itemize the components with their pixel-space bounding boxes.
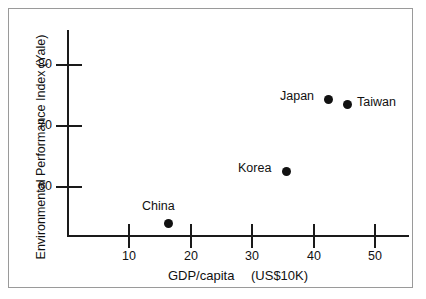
x-tick-50 <box>374 224 376 248</box>
x-tick-label-50: 50 <box>355 249 395 263</box>
y-tick-70 <box>56 125 82 127</box>
x-axis-title: GDP/capita (US$10K) <box>67 265 409 284</box>
y-axis-line <box>67 30 69 237</box>
x-tick-40 <box>313 224 315 248</box>
datapoint-taiwan <box>343 100 352 109</box>
datapoint-label-korea: Korea <box>238 161 271 175</box>
x-tick-label-10: 10 <box>109 249 149 263</box>
datapoint-china <box>164 219 173 228</box>
x-axis-line <box>67 235 409 237</box>
datapoint-japan <box>324 95 333 104</box>
datapoint-label-japan: Japan <box>280 89 314 103</box>
datapoint-korea <box>282 167 291 176</box>
x-tick-label-20: 20 <box>171 249 211 263</box>
datapoint-label-taiwan: Taiwan <box>357 95 396 109</box>
y-tick-80 <box>56 64 82 66</box>
y-tick-60 <box>56 186 82 188</box>
datapoint-label-china: China <box>142 199 175 213</box>
plot-area: 80 70 60 10 20 30 40 50 Environmental Pe… <box>0 0 426 299</box>
x-tick-label-30: 30 <box>232 249 272 263</box>
x-tick-10 <box>128 224 130 248</box>
y-axis-title: Environmental Performance Index (Yale) <box>34 27 48 267</box>
x-tick-30 <box>251 224 253 248</box>
x-tick-20 <box>190 224 192 248</box>
x-tick-label-40: 40 <box>294 249 334 263</box>
chart-figure: 80 70 60 10 20 30 40 50 Environmental Pe… <box>0 0 426 299</box>
